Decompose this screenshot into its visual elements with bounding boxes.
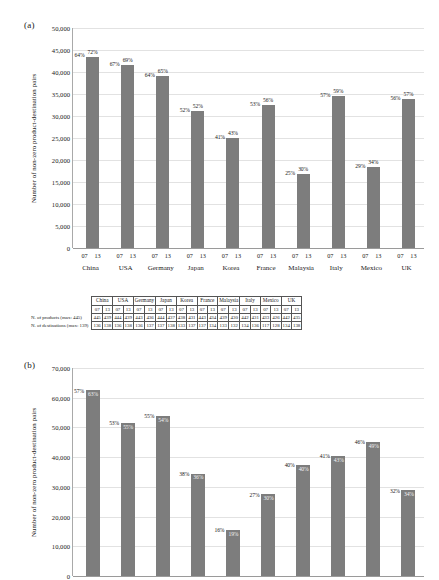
table-cell: 134 — [240, 321, 250, 329]
bar-13 — [331, 456, 345, 576]
y-axis-tick: 0 — [67, 245, 70, 252]
y-axis-tick: 20,000 — [52, 157, 70, 164]
panel-b-label: (b) — [24, 360, 35, 370]
bar-label-07: 40% — [285, 462, 295, 468]
bar-label-13: 34% — [368, 159, 378, 165]
panel-b-y-axis-title: Number of non-zero product-destination p… — [30, 407, 37, 536]
table-subheader: 13 — [271, 305, 281, 313]
table-subheader: 13 — [102, 305, 112, 313]
table-subheader: 07 — [240, 305, 250, 313]
x-axis-tick: 13 — [373, 252, 383, 259]
y-axis-tick: 40,000 — [52, 69, 70, 76]
bar-group: 40%40% — [284, 368, 319, 576]
table-cell: 137 — [145, 321, 156, 329]
bar-label-07: 52% — [180, 107, 190, 113]
bar-group: 52%52%0713Japan — [178, 28, 213, 248]
bar-group: 56%57%0713UK — [389, 28, 424, 248]
table-subheader: 07 — [113, 305, 123, 313]
table-cell: 433 — [260, 313, 270, 321]
y-axis-tick: 15,000 — [52, 179, 70, 186]
x-axis-category-label: Italy — [319, 264, 354, 272]
bar-13 — [366, 442, 380, 576]
x-axis-tick: 07 — [395, 252, 405, 259]
x-axis-tick: 13 — [408, 252, 418, 259]
table-subheader: 13 — [187, 305, 197, 313]
chart-panel-b: (b) Number of non-zero product-destinati… — [0, 346, 439, 576]
bar-group: 41%43% — [319, 368, 354, 576]
y-axis-tick: 50,000 — [52, 424, 70, 431]
x-axis-category-label: China — [73, 264, 108, 272]
table-subheader: 07 — [133, 305, 144, 313]
bar-13 — [296, 465, 310, 576]
table-subheader: 07 — [156, 305, 166, 313]
table-cell: 437 — [166, 313, 176, 321]
table-cell: 444 — [156, 313, 166, 321]
table-corner — [30, 305, 92, 313]
bar-label-13: 65% — [158, 68, 168, 74]
bar-label-13: 69% — [123, 57, 133, 63]
bar-label-07: 53% — [109, 420, 119, 426]
x-axis-category-label: Germany — [143, 264, 178, 272]
table-row: N. of products (max: 445)445439444439443… — [30, 313, 302, 321]
x-axis-tick: 07 — [290, 252, 300, 259]
bar-label-07: 67% — [110, 61, 120, 67]
bar-13 — [86, 390, 100, 576]
x-axis-tick: 13 — [303, 252, 313, 259]
table-cell: 128 — [271, 321, 281, 329]
bar-label-07: 53% — [250, 101, 260, 107]
table-cell: 137 — [156, 321, 166, 329]
table-cell: 138 — [166, 321, 176, 329]
bar-13 — [297, 174, 310, 248]
table-subheader: 13 — [123, 305, 133, 313]
table-subheader: 13 — [166, 305, 176, 313]
table-cell: 136 — [133, 321, 144, 329]
x-axis-tick: 13 — [268, 252, 278, 259]
table-column-header: China — [92, 297, 113, 306]
table-cell: 434 — [207, 313, 217, 321]
table-subheader: 13 — [229, 305, 240, 313]
bar-13 — [191, 474, 205, 577]
table-column-header: USA — [113, 297, 134, 306]
bar-13 — [156, 416, 170, 576]
bar-group: 67%69%0713USA — [108, 28, 143, 248]
bar-label-13: 55% — [123, 424, 133, 430]
y-axis-tick: 25,000 — [52, 135, 70, 142]
bar-group: 38%36% — [178, 368, 213, 576]
x-axis-tick: 13 — [338, 252, 348, 259]
bar-label-07: 57% — [320, 92, 330, 98]
panel-a-plot-area: 05,00010,00015,00020,00025,00030,00035,0… — [72, 28, 424, 248]
table-cell: 439 — [218, 313, 229, 321]
bar-group: 57%63% — [73, 368, 108, 576]
gridline — [73, 248, 424, 249]
table-cell: 439 — [123, 313, 133, 321]
bar-13 — [332, 96, 345, 248]
y-axis-tick: 0 — [67, 573, 70, 580]
bar-label-13: 19% — [228, 531, 238, 537]
table-subheader: 07 — [197, 305, 207, 313]
bar-13 — [156, 76, 169, 248]
bar-label-07: 41% — [215, 134, 225, 140]
chart-panel-a: (a) Number of non-zero product-destinati… — [0, 0, 439, 286]
panel-b-plot-area: 010,00020,00030,00040,00050,00060,00070,… — [72, 368, 424, 576]
bar-label-13: 63% — [88, 391, 98, 397]
table-column-header: France — [197, 297, 218, 306]
y-axis-tick: 35,000 — [52, 91, 70, 98]
bar-label-07: 55% — [144, 413, 154, 419]
table-subheader: 13 — [250, 305, 260, 313]
table-cell: 134 — [207, 321, 217, 329]
table-column-header: UK — [281, 297, 302, 306]
bar-label-13: 72% — [88, 49, 98, 55]
bar-group: 64%65%0713Germany — [143, 28, 178, 248]
x-axis-category-label: France — [249, 264, 284, 272]
bar-group: 27%30% — [249, 368, 284, 576]
bar-group: 57%59%0713Italy — [319, 28, 354, 248]
table-cell: 442 — [281, 313, 291, 321]
bar-label-13: 56% — [263, 97, 273, 103]
table-cell: 445 — [92, 313, 102, 321]
bar-label-07: 64% — [145, 72, 155, 78]
x-axis-category-label: UK — [389, 264, 424, 272]
x-axis-category-label: Japan — [178, 264, 213, 272]
y-axis-tick: 10,000 — [52, 201, 70, 208]
bar-13 — [226, 138, 239, 248]
